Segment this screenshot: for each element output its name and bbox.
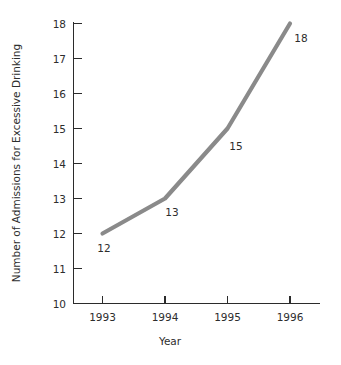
y-tick-label-15: 15 bbox=[53, 123, 66, 135]
y-tick-label-13: 13 bbox=[53, 193, 66, 205]
y-tick-label-11: 11 bbox=[53, 263, 66, 275]
data-point-label-1994: 13 bbox=[165, 206, 178, 218]
figure-caption-sliver bbox=[16, 360, 326, 365]
y-tick-label-12: 12 bbox=[53, 228, 66, 240]
chart-figure: 18 17 16 15 14 13 12 11 10 1993 1994 199… bbox=[0, 0, 341, 365]
data-point-label-1993: 12 bbox=[97, 242, 110, 254]
x-tick-label-1993: 1993 bbox=[89, 311, 116, 323]
x-tick-label-1995: 1995 bbox=[214, 311, 241, 323]
data-series-line bbox=[103, 24, 291, 234]
y-tick-label-16: 16 bbox=[53, 88, 67, 100]
data-point-label-1996: 18 bbox=[294, 32, 307, 44]
y-tick-label-18: 18 bbox=[53, 18, 66, 30]
y-tick-label-10: 10 bbox=[53, 298, 66, 310]
x-axis-title: Year bbox=[158, 335, 182, 347]
line-chart: 18 17 16 15 14 13 12 11 10 1993 1994 199… bbox=[0, 0, 341, 365]
y-axis-title: Number of Admissions for Excessive Drink… bbox=[10, 44, 22, 282]
y-tick-label-17: 17 bbox=[53, 53, 66, 65]
x-tick-label-1996: 1996 bbox=[277, 311, 304, 323]
data-point-label-1995: 15 bbox=[229, 140, 242, 152]
x-tick-label-1994: 1994 bbox=[152, 311, 179, 323]
y-tick-label-14: 14 bbox=[53, 158, 67, 170]
